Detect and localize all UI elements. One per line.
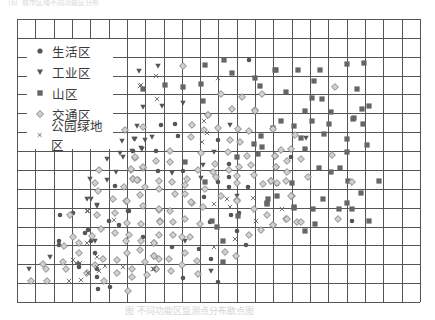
legend-item-park: 公园绿地区	[33, 127, 113, 143]
bottom-caption: 图 不同功能区监测点分布散点图	[125, 305, 335, 317]
circle-marker-icon	[33, 44, 47, 58]
legend-label: 公园绿地区	[51, 116, 113, 154]
legend-item-mountain: 山区	[33, 85, 78, 101]
square-marker-icon	[33, 86, 47, 100]
legend-label: 山区	[52, 84, 78, 103]
diamond-marker-icon	[33, 107, 47, 121]
legend: 生活区 工业区 山区 交通区 公园绿地区	[27, 39, 113, 149]
legend-label: 生活区	[52, 42, 91, 61]
triangle-down-marker-icon	[33, 65, 47, 79]
x-marker-icon	[33, 128, 46, 142]
legend-label: 工业区	[52, 63, 91, 82]
legend-item-living: 生活区	[33, 43, 91, 59]
legend-item-industrial: 工业区	[33, 64, 91, 80]
